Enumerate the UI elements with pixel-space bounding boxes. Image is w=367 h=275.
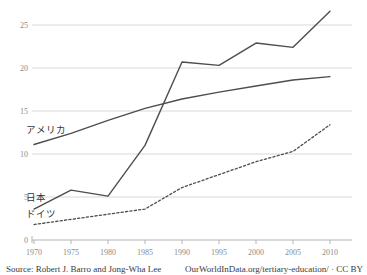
x-axis-ticks [34,240,330,244]
x-axis-tick-label-1975: 1975 [56,248,86,257]
series-label-america: アメリカ [26,122,66,136]
y-axis-tick-label-25: 25 [12,21,28,30]
credit-link[interactable]: OurWorldInData.org/tertiary-education/ ·… [185,264,363,274]
x-axis-tick-label-1985: 1985 [130,248,160,257]
series-label-germany: ドイツ [26,206,56,220]
gridlines [32,25,352,197]
x-axis-tick-label-2005: 2005 [278,248,308,257]
x-axis-tick-label-1980: 1980 [93,248,123,257]
x-axis-tick-label-2000: 2000 [241,248,271,257]
series-line-germany [34,125,330,225]
line-chart-plot [0,0,367,275]
y-axis-tick-label-15: 15 [12,107,28,116]
y-axis-tick-label-0: 0 [12,236,28,245]
x-axis-tick-label-1970: 1970 [19,248,49,257]
y-axis-tick-label-10: 10 [12,150,28,159]
series-line-japan [34,11,330,209]
x-axis-tick-label-2010: 2010 [315,248,345,257]
x-axis-tick-label-1990: 1990 [167,248,197,257]
source-note: Source: Robert J. Barro and Jong-Wha Lee [6,264,161,274]
chart-container: 25 20 15 10 5 0 1970 1975 1980 1985 1990… [0,0,367,275]
series-label-japan: 日本 [26,190,46,204]
x-axis-tick-label-1995: 1995 [204,248,234,257]
axes [32,236,352,243]
y-axis-tick-label-20: 20 [12,64,28,73]
